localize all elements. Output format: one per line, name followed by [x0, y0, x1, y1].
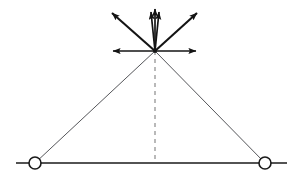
- figure-container: [0, 0, 301, 178]
- vector-diagram-svg: [0, 0, 301, 178]
- apex-node: [153, 49, 157, 53]
- member-left-leg: [35, 51, 155, 163]
- right-pin-support: [259, 157, 271, 169]
- truss-members: [35, 51, 265, 163]
- left-pin-support: [29, 157, 41, 169]
- vector-up-left-diagonal-arrow: [112, 13, 155, 51]
- member-right-leg: [155, 51, 265, 163]
- vector-fan: [112, 9, 197, 51]
- vector-up-right-diagonal-arrow: [155, 13, 197, 51]
